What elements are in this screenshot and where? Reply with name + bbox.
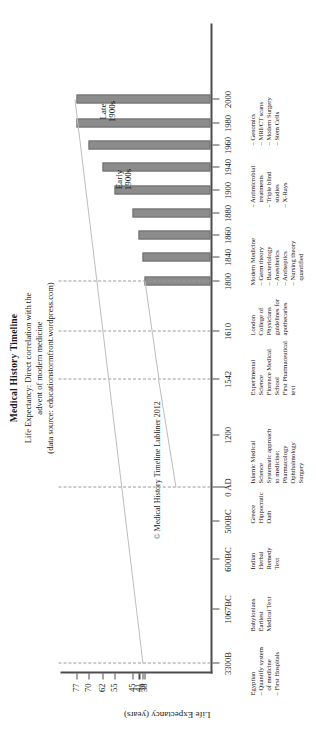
y-axis-tick	[132, 673, 133, 679]
annotation-item: Science	[257, 428, 265, 483]
annotation-heading: Egyptian	[249, 647, 257, 695]
era-label: Late1900s	[99, 71, 118, 151]
y-axis-tick-label: 55	[109, 683, 119, 713]
annotation-item: Physicians	[265, 299, 273, 335]
annotation-heading: – Genomics	[249, 97, 257, 145]
annotation-item: quantified	[297, 238, 305, 285]
x-axis-tick-label: 0 AD	[223, 457, 233, 517]
x-axis-tick	[213, 520, 220, 521]
x-axis-tick	[213, 662, 220, 663]
chart-canvas: Medical History Timeline Life Expectancy…	[3, 0, 316, 735]
bar	[132, 209, 210, 218]
annotation-item: Hippocratic	[257, 492, 265, 523]
copyright-credit: © Medical History Timeline Lubliner 2012	[153, 401, 162, 539]
subtitle-line-1: Life Expectancy: Direct correlation with…	[23, 0, 33, 735]
annotation-item: – MRI/CT scans	[257, 97, 265, 145]
annotation-item: studies	[273, 165, 281, 207]
annotation-heading: – Antimicrobial	[249, 165, 257, 207]
annotation-item: – Germ theory	[257, 238, 265, 285]
x-axis-tick	[213, 378, 220, 379]
x-axis-tick	[213, 189, 220, 190]
annotation-item: text	[289, 341, 297, 395]
annotation-item: – Stem Cells	[273, 97, 281, 145]
annotation-heading: Modern Medicine	[249, 238, 257, 285]
x-axis-tick	[213, 166, 220, 167]
annotation-item: Surgery	[297, 428, 305, 483]
bar	[76, 119, 210, 128]
annotation-heading: Indian	[249, 547, 257, 569]
annotation-antimicrobial: – Antimicrobial treatments– Triple blind…	[249, 165, 289, 207]
annotation-modern-medicine: Modern Medicine– Germ theory– Bacteriolo…	[249, 238, 305, 285]
x-axis-tick	[213, 608, 220, 609]
guide-line	[59, 378, 211, 379]
annotation-item: – First Hospitals	[273, 647, 281, 695]
subtitle-line-3: (data source: educationstormfront.wordpr…	[45, 0, 55, 735]
annotation-item: Earliest	[257, 596, 265, 631]
y-axis-tick	[115, 673, 116, 679]
x-axis-tick	[213, 434, 220, 435]
annotation-item: Herbal	[257, 547, 265, 569]
era-label-line: 1900s	[124, 139, 133, 219]
x-axis-tick-label: 1200	[223, 405, 233, 465]
annotation-heading: London	[249, 299, 257, 335]
annotation-item: Florence Medical	[265, 341, 273, 395]
x-axis-tick	[213, 330, 220, 331]
bar	[139, 231, 211, 240]
annotation-item: – Antiseptics	[281, 238, 289, 285]
x-axis-tick-label: 2000	[223, 69, 233, 129]
y-axis-tick	[139, 673, 140, 679]
annotation-egyptian: Egyptian– Quantify system of medicine– F…	[249, 647, 281, 695]
annotation-item: First Pharmaceutical	[281, 341, 289, 395]
annotation-babylonians: BabyloniansEarliestMedical Text	[249, 596, 273, 631]
annotation-indian: IndianHerbalRemedyText	[249, 547, 281, 569]
bar	[76, 95, 210, 104]
annotation-item: Ophthalmology	[289, 428, 297, 483]
x-axis-tick	[213, 234, 220, 235]
annotation-experimental-science: ExperimentalScienceFlorence MedicalSchoo…	[249, 341, 297, 395]
annotation-item: – Nursing theory	[289, 238, 297, 285]
y-axis-tick-label: 38	[138, 683, 148, 713]
x-axis-tick	[213, 144, 220, 145]
y-axis-line	[61, 671, 213, 673]
annotation-item: – X-Rays	[281, 165, 289, 207]
era-label-line: 1900s	[108, 71, 117, 151]
annotation-item: Medical Text	[265, 596, 273, 631]
annotation-item: Science	[257, 341, 265, 395]
annotation-item: to medicine:	[273, 428, 281, 483]
annotation-heading: Greece	[249, 492, 257, 523]
annotation-heading: Experimental	[249, 341, 257, 395]
y-axis-tick	[144, 673, 145, 679]
annotation-item: College of	[257, 299, 265, 335]
medical-history-timeline-chart: Medical History Timeline Life Expectancy…	[3, 0, 316, 735]
x-axis-tick-label: 3300B	[223, 633, 233, 693]
annotation-genomics: – Genomics– MRI/CT scans– Modern Surgery…	[249, 97, 281, 145]
annotation-item: Pharmacology	[281, 428, 289, 483]
annotation-item: – Quantify system	[257, 647, 265, 695]
x-axis-line	[211, 23, 213, 673]
annotation-item: Remedy	[265, 547, 273, 569]
annotation-item: Text	[273, 547, 281, 569]
bar	[142, 253, 210, 262]
guide-line	[59, 486, 211, 487]
subtitle-line-2: advent of modern medicine	[34, 0, 44, 735]
annotation-item: – Anesthetics	[273, 238, 281, 285]
guide-line	[59, 662, 211, 663]
y-axis-tick	[76, 673, 77, 679]
annotation-islamic: Islamic MedicalScienceSystematic approac…	[249, 428, 305, 483]
y-axis-tick	[88, 673, 89, 679]
page-title: Medical History Timeline	[9, 0, 19, 735]
annotation-item: apothecaries	[281, 299, 289, 335]
annotation-greece: GreeceHippocraticOath	[249, 492, 273, 523]
guide-line	[59, 280, 211, 281]
x-axis-tick	[213, 280, 220, 281]
annotation-item: – Modern Surgery	[265, 97, 273, 145]
annotation-item: Systematic approach	[265, 428, 273, 483]
annotation-london-college: LondonCollege ofPhysiciansguidelines for…	[249, 299, 289, 335]
annotation-heading: Islamic Medical	[249, 428, 257, 483]
annotation-item: of medicine	[265, 647, 273, 695]
annotation-item: School	[273, 341, 281, 395]
x-axis-tick	[213, 98, 220, 99]
x-axis-tick	[213, 212, 220, 213]
annotation-item: Oath	[265, 492, 273, 523]
guide-line	[59, 330, 211, 331]
